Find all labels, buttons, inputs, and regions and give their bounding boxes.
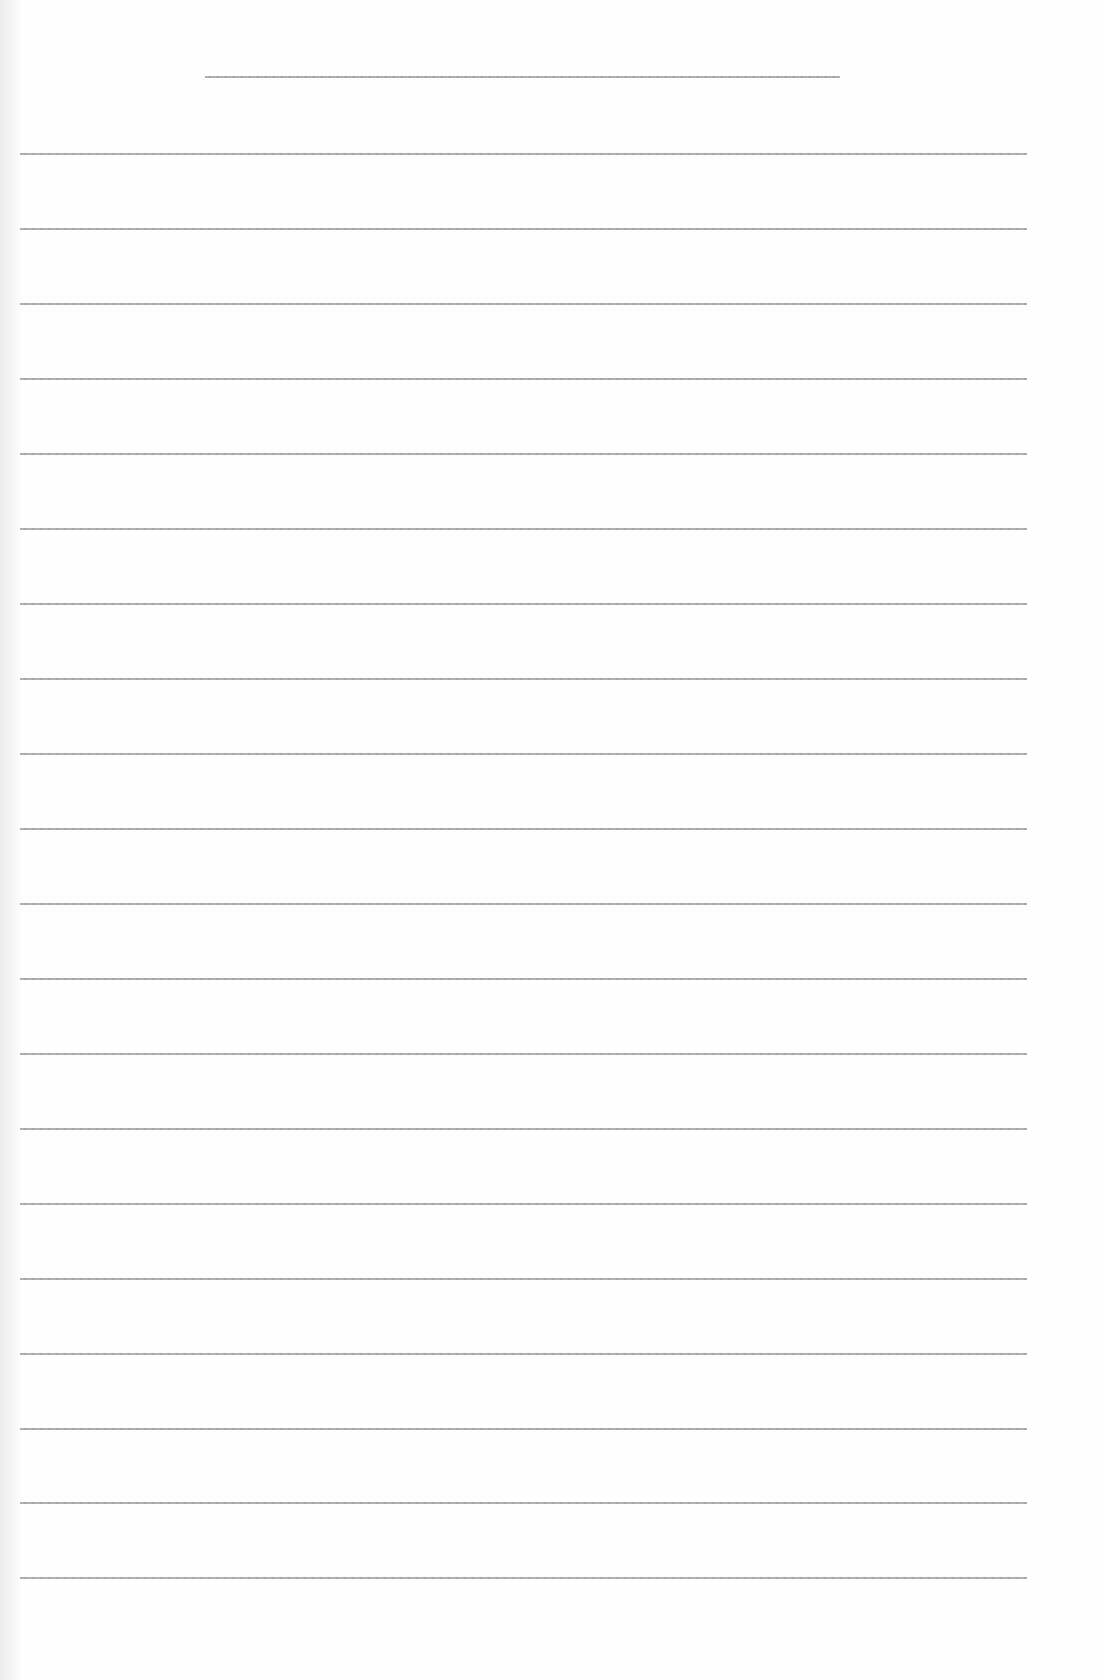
ruled-line (20, 1428, 1027, 1430)
ruled-line (20, 603, 1027, 605)
ruled-line (20, 828, 1027, 830)
ruled-line (20, 303, 1027, 305)
ruled-line (20, 528, 1027, 530)
ruled-line (20, 1053, 1027, 1055)
ruled-line (20, 1203, 1027, 1205)
ruled-line (20, 1577, 1027, 1579)
lined-paper-page (0, 0, 1101, 1680)
page-edge-shadow (0, 0, 22, 1680)
ruled-line (20, 1502, 1027, 1504)
ruled-line (20, 378, 1027, 380)
ruled-line (20, 1278, 1027, 1280)
title-line (205, 76, 840, 78)
ruled-line (20, 903, 1027, 905)
ruled-line (20, 1128, 1027, 1130)
ruled-line (20, 678, 1027, 680)
ruled-line (20, 978, 1027, 980)
ruled-line (20, 753, 1027, 755)
ruled-line (20, 228, 1027, 230)
ruled-line (20, 153, 1027, 155)
ruled-line (20, 453, 1027, 455)
ruled-line (20, 1353, 1027, 1355)
